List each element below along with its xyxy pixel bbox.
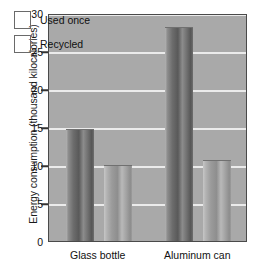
legend-label-recycled: Recycled bbox=[40, 38, 83, 50]
legend-swatch-recycled bbox=[14, 35, 31, 53]
legend-item: Recycled bbox=[14, 32, 90, 56]
gridline bbox=[49, 90, 246, 92]
y-axis-tick-label: 0 bbox=[17, 236, 43, 248]
legend-label-used-once: Used once bbox=[40, 14, 90, 26]
y-axis-tick-label: 20 bbox=[17, 84, 43, 96]
legend-swatch-used-once bbox=[14, 11, 31, 29]
y-axis-tick-mark bbox=[41, 165, 48, 167]
bar bbox=[203, 160, 231, 241]
x-axis-tick-label: Aluminum can bbox=[137, 249, 255, 261]
legend-item: Used once bbox=[14, 8, 90, 32]
bar bbox=[104, 165, 132, 241]
y-axis-tick-mark bbox=[41, 203, 48, 205]
y-axis-tick-label: 5 bbox=[17, 198, 43, 210]
y-axis-tick-label: 15 bbox=[17, 122, 43, 134]
bar bbox=[66, 129, 94, 241]
chart-figure: Energy consumption (thousand kilocalorie… bbox=[0, 0, 255, 275]
y-axis-tick-label: 10 bbox=[17, 160, 43, 172]
y-axis-tick-mark bbox=[41, 127, 48, 129]
y-axis-tick-mark bbox=[41, 89, 48, 91]
bar bbox=[165, 27, 193, 241]
legend: Used once Recycled bbox=[14, 8, 90, 56]
